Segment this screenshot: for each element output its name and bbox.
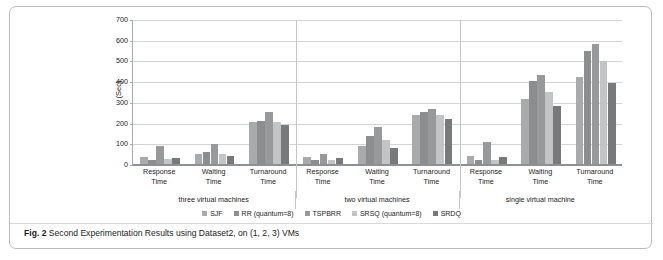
y-axis-tick-label: 500 <box>106 57 128 65</box>
x-axis-category-label: Waiting Time <box>513 167 567 186</box>
legend-item[interactable]: SRSQ (quantum=8) <box>352 210 422 217</box>
legend-item[interactable]: SJF <box>202 210 222 217</box>
bar <box>249 122 257 164</box>
legend-label: RR (quantum=8) <box>242 210 294 217</box>
x-axis-category-label: Turnaround Time <box>404 167 458 186</box>
group-separator-lower <box>459 191 460 209</box>
bar <box>390 148 398 164</box>
y-axis-tick-label: 300 <box>106 99 128 107</box>
group-separator-lower <box>295 191 296 209</box>
bar <box>445 119 453 164</box>
legend-swatch-icon <box>433 211 438 216</box>
bar <box>257 121 265 165</box>
bar <box>328 160 336 164</box>
bar <box>499 157 507 164</box>
legend-item[interactable]: SRDQ <box>433 210 461 217</box>
bar <box>529 81 537 164</box>
bar <box>211 144 219 164</box>
y-axis-tick-label: 100 <box>106 140 128 148</box>
bar <box>195 154 203 164</box>
bar <box>281 125 289 164</box>
bar <box>164 159 172 164</box>
bar <box>148 160 156 164</box>
bar <box>412 115 420 164</box>
y-axis-tick-label: 0 <box>106 161 128 169</box>
figure-card: (Sec) 0100200300400500600700 Response Ti… <box>9 6 652 249</box>
bar <box>303 157 311 164</box>
bar <box>467 156 475 164</box>
bar <box>366 136 374 164</box>
bar <box>420 112 428 164</box>
x-axis-group-label: two virtual machines <box>295 195 458 204</box>
bar <box>320 154 328 164</box>
bar <box>140 157 148 164</box>
legend-label: SJF <box>210 210 222 217</box>
y-axis-tick-label: 400 <box>106 78 128 86</box>
x-axis-category-label: Response Time <box>295 167 349 186</box>
bar <box>545 92 553 164</box>
plot-area <box>132 20 622 165</box>
x-axis-category-label: Response Time <box>459 167 513 186</box>
legend-swatch-icon <box>234 211 239 216</box>
legend-label: TSPBRR <box>313 210 341 217</box>
bar <box>475 160 483 164</box>
bar <box>592 44 600 164</box>
x-axis-category-label: Response Time <box>132 167 186 186</box>
bar <box>358 146 366 164</box>
bar <box>273 122 281 164</box>
bar <box>227 156 235 164</box>
figure-caption: Fig. 2 Second Experimentation Results us… <box>24 228 639 238</box>
x-axis-category-label: Waiting Time <box>350 167 404 186</box>
chart-legend: SJFRR (quantum=8)TSPBRRSRSQ (quantum=8)S… <box>10 210 653 217</box>
legend-label: SRDQ <box>441 210 461 217</box>
bar <box>311 160 319 164</box>
gridline <box>133 165 622 166</box>
bar <box>428 109 436 165</box>
y-axis-tick-label: 200 <box>106 120 128 128</box>
legend-swatch-icon <box>352 211 357 216</box>
bar <box>491 160 499 164</box>
figure-caption-label: Fig. 2 <box>24 228 46 238</box>
bar <box>336 158 344 164</box>
bar <box>156 146 164 164</box>
y-axis-tick-labels: 0100200300400500600700 <box>106 20 128 165</box>
x-axis-group-label: three virtual machines <box>132 195 295 204</box>
legend-swatch-icon <box>305 211 310 216</box>
y-axis-tickmark <box>130 165 133 166</box>
bar-chart: (Sec) 0100200300400500600700 Response Ti… <box>10 7 653 203</box>
legend-label: SRSQ (quantum=8) <box>360 210 422 217</box>
x-axis-category-labels: Response TimeWaiting TimeTurnaround Time… <box>132 167 622 193</box>
legend-item[interactable]: TSPBRR <box>305 210 341 217</box>
bars-layer <box>133 20 622 164</box>
bar <box>553 106 561 164</box>
bar <box>436 115 444 164</box>
caption-divider <box>10 223 653 224</box>
legend-swatch-icon <box>202 211 207 216</box>
bar <box>576 77 584 164</box>
bar <box>265 112 273 164</box>
bar <box>600 61 608 164</box>
bar <box>521 99 529 164</box>
y-axis-tick-label: 700 <box>106 16 128 24</box>
bar <box>172 158 180 164</box>
bar <box>374 127 382 164</box>
bar <box>537 75 545 164</box>
x-axis-category-label: Turnaround Time <box>241 167 295 186</box>
bar <box>584 51 592 165</box>
x-axis-group-labels: three virtual machinestwo virtual machin… <box>132 195 622 209</box>
bar <box>219 154 227 164</box>
figure-caption-text: Second Experimentation Results using Dat… <box>49 228 299 238</box>
y-axis-tick-label: 600 <box>106 37 128 45</box>
bar <box>608 83 616 164</box>
legend-item[interactable]: RR (quantum=8) <box>234 210 294 217</box>
x-axis-category-label: Waiting Time <box>186 167 240 186</box>
bar <box>382 140 390 164</box>
x-axis-category-label: Turnaround Time <box>568 167 622 186</box>
bar <box>483 142 491 164</box>
x-axis-group-label: single virtual machine <box>459 195 622 204</box>
bar <box>203 152 211 164</box>
